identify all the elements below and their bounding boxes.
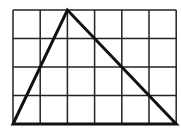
grid-triangle-diagram <box>0 0 181 130</box>
grid <box>13 10 176 124</box>
